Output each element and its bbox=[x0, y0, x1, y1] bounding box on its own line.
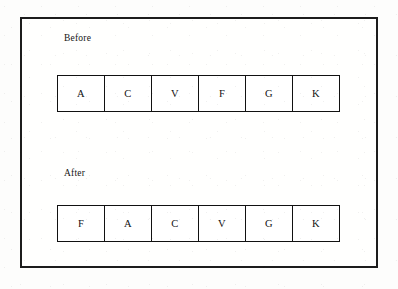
after-cell-0: F bbox=[58, 206, 105, 241]
after-cell-5: K bbox=[293, 206, 339, 241]
before-cell-5: K bbox=[293, 76, 339, 111]
after-array-row: F A C V G K bbox=[57, 205, 340, 242]
after-cell-2: C bbox=[152, 206, 199, 241]
before-cell-2: V bbox=[152, 76, 199, 111]
after-cell-4: G bbox=[246, 206, 293, 241]
before-cell-0: A bbox=[58, 76, 105, 111]
page-background: Before A C V F G K After F A C V G K bbox=[0, 0, 398, 289]
before-cell-4: G bbox=[246, 76, 293, 111]
before-cell-3: F bbox=[199, 76, 246, 111]
after-section-label: After bbox=[64, 168, 85, 178]
after-cell-3: V bbox=[199, 206, 246, 241]
after-cell-1: A bbox=[105, 206, 152, 241]
before-array-row: A C V F G K bbox=[57, 75, 340, 112]
before-cell-1: C bbox=[105, 76, 152, 111]
figure-frame: Before A C V F G K After F A C V G K bbox=[20, 17, 378, 268]
before-section-label: Before bbox=[64, 33, 91, 43]
